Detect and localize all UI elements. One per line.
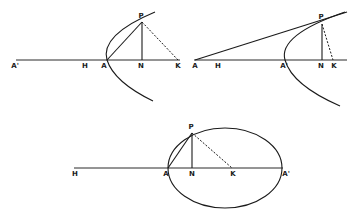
figure-parabola-right: A H A' N K P [192, 12, 347, 106]
label-p: P [138, 12, 143, 20]
label-k: K [230, 170, 236, 178]
label-h: H [82, 62, 88, 70]
label-n: N [138, 62, 144, 70]
label-h: H [72, 170, 78, 178]
label-n: N [189, 170, 195, 178]
figure-parabola-left: A' H A N K P [11, 12, 181, 101]
label-p: P [188, 123, 193, 131]
label-a: A [192, 62, 198, 70]
label-h: H [215, 62, 221, 70]
normal-pk [192, 133, 232, 168]
tangent-line [195, 12, 347, 60]
label-a: A [163, 170, 169, 178]
label-n: N [318, 62, 324, 70]
label-a-prime: A' [11, 62, 19, 70]
label-a-prime: A' [280, 62, 288, 70]
geometry-diagram: A' H A N K P A H A' N K P H A N K A' P [0, 0, 355, 218]
chord-ap [168, 133, 192, 168]
parabola-curve [284, 12, 345, 106]
label-p: P [318, 13, 323, 21]
parabola-curve [106, 12, 155, 101]
normal-pk [322, 24, 333, 60]
label-a: A [101, 62, 107, 70]
label-a-prime: A' [282, 170, 290, 178]
figure-ellipse: H A N K A' P [72, 123, 290, 208]
label-k: K [175, 62, 181, 70]
normal-pk [142, 22, 178, 60]
label-k: K [331, 62, 337, 70]
